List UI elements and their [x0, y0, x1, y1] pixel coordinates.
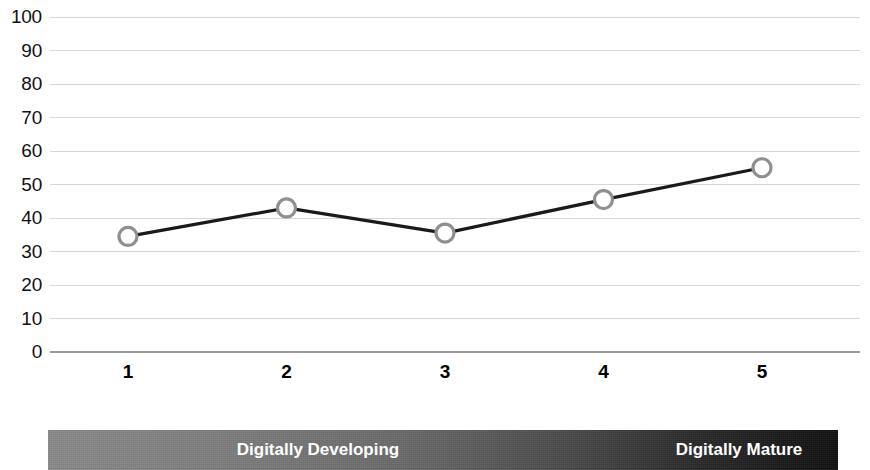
data-point-marker	[436, 224, 454, 242]
series-marker-group	[119, 159, 771, 246]
maturity-spectrum-bar: Digitally Developing Digitally Mature	[48, 430, 838, 470]
spectrum-label-digitally-developing: Digitally Developing	[193, 440, 443, 460]
data-point-marker	[595, 191, 613, 209]
data-series-layer	[0, 0, 870, 400]
data-point-marker	[119, 227, 137, 245]
plot-area: 0102030405060708090100 12345	[0, 0, 870, 400]
spectrum-label-digitally-mature: Digitally Mature	[614, 440, 838, 460]
data-point-marker	[753, 159, 771, 177]
data-point-marker	[278, 199, 296, 217]
